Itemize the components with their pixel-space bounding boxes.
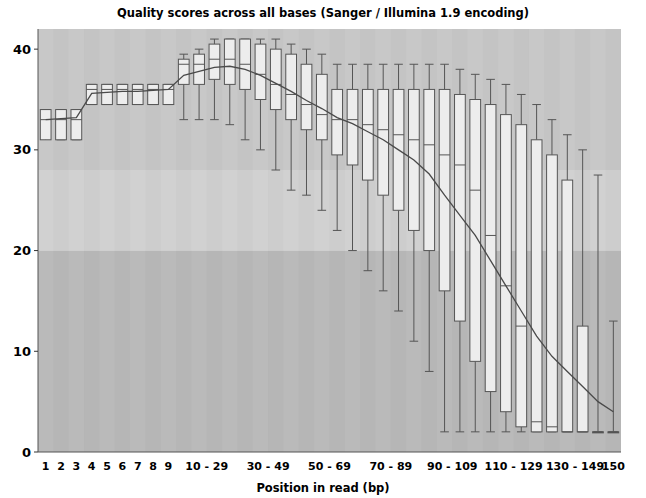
boxplot-box (117, 84, 128, 104)
x-tick-label: 90 - 109 (427, 460, 478, 473)
iqr-box (516, 125, 527, 427)
fastqc-per-base-quality-chart: Quality scores across all bases (Sanger … (0, 0, 646, 498)
iqr-box (163, 84, 174, 104)
column-stripe (69, 29, 84, 452)
x-tick-label: 130 - 149 (546, 460, 604, 473)
iqr-box (286, 54, 297, 119)
column-stripe (53, 29, 68, 452)
y-tick-label: 40 (13, 42, 31, 57)
y-tick-label: 0 (22, 445, 31, 460)
boxplot-box (163, 84, 174, 104)
boxplot-box (148, 84, 159, 104)
iqr-box (485, 105, 496, 392)
x-tick-label: 2 (57, 460, 65, 473)
boxplot-box (102, 84, 113, 104)
iqr-box (531, 140, 542, 432)
boxplot-box (71, 110, 82, 140)
x-tick-label: 3 (73, 460, 81, 473)
x-tick-label: 6 (119, 460, 127, 473)
boxplot-box (531, 105, 542, 432)
column-stripe (38, 29, 53, 452)
plot-area: 010203040 12345678910 - 2930 - 4950 - 69… (0, 0, 646, 498)
x-tick-label: 110 - 129 (485, 460, 543, 473)
iqr-box (194, 54, 205, 84)
y-axis-ticks: 010203040 (13, 42, 38, 460)
iqr-box (501, 115, 512, 412)
iqr-box (178, 59, 189, 84)
iqr-box (301, 64, 312, 129)
x-tick-label: 30 - 49 (247, 460, 290, 473)
x-tick-label: 4 (88, 460, 96, 473)
x-tick-label: 150 (602, 460, 625, 473)
x-tick-label: 9 (165, 460, 173, 473)
iqr-box (455, 94, 466, 321)
iqr-box (547, 155, 558, 432)
iqr-box (577, 326, 588, 432)
iqr-box (562, 180, 573, 432)
x-tick-label: 70 - 89 (369, 460, 412, 473)
boxplot-box (501, 84, 512, 431)
iqr-box (347, 89, 358, 165)
iqr-box (40, 110, 51, 140)
iqr-box (255, 44, 266, 99)
y-tick-label: 20 (13, 243, 31, 258)
boxplot-box (132, 84, 143, 104)
iqr-box (56, 110, 67, 140)
iqr-box (332, 89, 343, 154)
iqr-box (224, 39, 235, 84)
x-tick-label: 7 (134, 460, 142, 473)
x-axis-ticks: 12345678910 - 2930 - 4950 - 6970 - 8990 … (42, 460, 625, 473)
iqr-box (148, 84, 159, 104)
x-tick-label: 8 (149, 460, 157, 473)
boxplot-box (56, 110, 67, 140)
iqr-box (71, 110, 82, 140)
iqr-box (209, 44, 220, 79)
y-tick-label: 10 (13, 344, 31, 359)
x-axis-title: Position in read (bp) (256, 481, 389, 495)
iqr-box (270, 49, 281, 109)
x-tick-label: 10 - 29 (185, 460, 228, 473)
boxplot-box (516, 94, 527, 431)
y-tick-label: 30 (13, 142, 31, 157)
x-tick-label: 50 - 69 (308, 460, 351, 473)
iqr-box (102, 84, 113, 104)
boxplot-box (40, 110, 51, 140)
iqr-box (117, 84, 128, 104)
x-tick-label: 5 (103, 460, 111, 473)
iqr-box (132, 84, 143, 104)
iqr-box (362, 89, 373, 180)
x-tick-label: 1 (42, 460, 50, 473)
boxplot-box (547, 120, 558, 432)
